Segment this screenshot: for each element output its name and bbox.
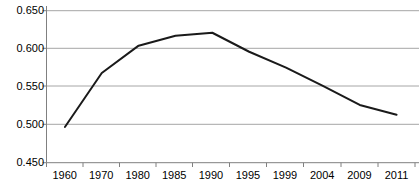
x-axis-label-6: 1999 [267,170,304,181]
x-axis-label-9: 2011 [378,170,415,181]
x-axis-label-7: 2004 [304,170,342,181]
x-axis-label-5: 1995 [230,170,267,181]
line-chart: 0.650 0.600 0.550 0.500 0.450 1960 1970 … [0,0,420,186]
x-axis-label-2: 1980 [120,170,157,181]
x-axis-label-1: 1970 [83,170,120,181]
x-axis-label-8: 2009 [341,170,378,181]
x-axis-label-3: 1985 [156,170,193,181]
x-axis-label-4: 1990 [193,170,230,181]
x-axis-labels: 1960 1970 1980 1985 1990 1995 1999 2004 … [0,0,420,186]
x-axis-label-0: 1960 [47,170,84,181]
